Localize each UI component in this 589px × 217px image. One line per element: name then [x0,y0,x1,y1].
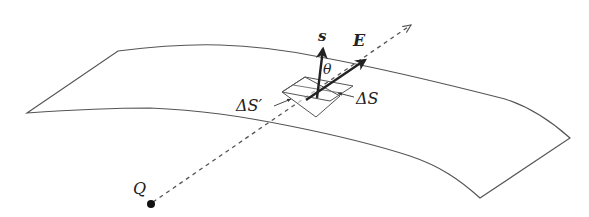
flux-diagram: s E θ ΔS ΔS′ Q [0,0,589,217]
label-delta-s-prime: ΔS′ [235,96,263,115]
curved-surface [27,45,570,198]
label-theta: θ [323,61,332,77]
label-q: Q [133,179,146,198]
pointer-delta-s-prime [274,99,291,106]
label-s: s [318,27,327,45]
pointer-delta-s [338,93,354,97]
label-delta-s: ΔS [355,89,379,108]
label-e: E [352,31,366,50]
charge-point [147,200,155,208]
field-line-dashed [153,25,411,202]
